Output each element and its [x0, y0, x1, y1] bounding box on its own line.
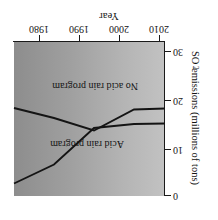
value-axis-tick — [165, 100, 171, 101]
series-label-no-acid-rain-program: No acid rain program — [52, 81, 138, 92]
series-label-acid-rain-program: Acid rain program — [50, 139, 124, 150]
value-axis-tick-label: 30 — [173, 47, 187, 57]
category-axis-tick — [119, 35, 120, 41]
series-line-no-acid-rain-program — [14, 108, 165, 131]
value-axis-title: SO2 emissions (millions of tons) — [188, 40, 202, 196]
value-axis-title-text: SO — [190, 51, 201, 64]
category-axis-tick — [39, 35, 40, 41]
value-axis-tick — [165, 51, 171, 52]
value-axis-tick — [165, 149, 171, 150]
chart-figure: 0 10 20 30 SO2 emissions (millions of to… — [0, 0, 218, 220]
value-axis-tick-label: 10 — [173, 145, 187, 155]
category-axis-tick-label: 1990 — [62, 24, 96, 34]
category-axis-tick-label: 2000 — [102, 24, 136, 34]
category-axis-tick-label: 2010 — [142, 24, 176, 34]
category-axis-tick — [79, 35, 80, 41]
category-axis-tick — [159, 35, 160, 41]
series-line-acid-rain-program — [14, 124, 165, 184]
value-axis-title-rest: emissions (millions of tons) — [190, 68, 201, 185]
value-axis-tick — [165, 195, 171, 196]
value-axis-title-subscript: 2 — [190, 66, 201, 70]
series-group — [14, 42, 165, 196]
value-axis-tick-label: 20 — [173, 96, 187, 106]
value-axis-tick-label: 0 — [173, 191, 185, 201]
category-axis-tick-label: 1980 — [22, 24, 56, 34]
category-axis-title: Year — [0, 11, 218, 22]
